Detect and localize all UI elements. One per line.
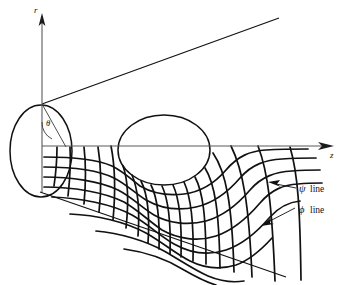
phi-legend-symbol: ϕ [299,204,305,215]
psi-line-family [44,149,322,285]
phi-curve [84,147,86,204]
psi-legend-symbol: ψ [299,183,306,194]
body-outlines [10,105,210,197]
figure-container: r z θ ψ line ϕ line [0,0,342,285]
psi-legend-text: line [310,184,324,194]
left-ellipse-body [10,105,72,197]
phi-legend-text: line [310,205,324,215]
axes-group [39,13,334,192]
radial-axis-label: r [34,5,38,15]
theta-angle-label: θ [46,118,50,128]
phi-curve [111,146,115,220]
phi-line-family [54,146,301,281]
axial-axis-label: z [329,150,334,160]
flow-grid-figure: r z θ ψ line ϕ line [0,0,342,285]
upper-cone-line [42,18,279,104]
psi-leader-arrowhead [268,180,281,187]
